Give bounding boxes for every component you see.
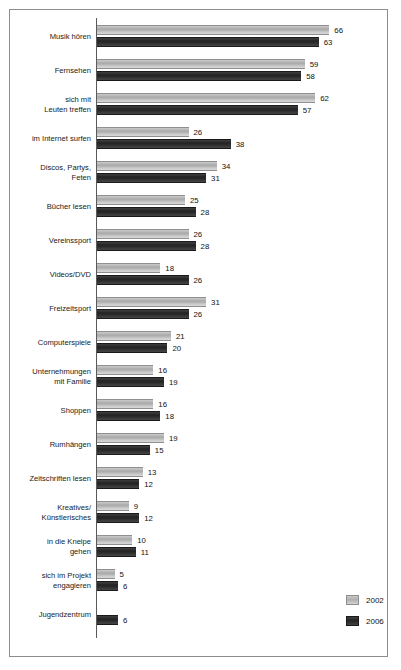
bar-2002 (97, 365, 153, 375)
bar-2002 (97, 127, 189, 137)
bar-track: 38 (97, 139, 387, 149)
bar-2006 (97, 445, 150, 455)
bar-group-row: sich im Projekt engagieren56 (10, 564, 387, 598)
light-gray-swatch (346, 595, 359, 605)
bar-2002 (97, 331, 171, 341)
bar-2006 (97, 207, 196, 217)
bar-track: 34 (97, 161, 387, 171)
bar-track: 28 (97, 241, 387, 251)
bar-2002 (97, 93, 315, 103)
bar-track: 21 (97, 331, 387, 341)
category-label: Musik hören (0, 32, 91, 42)
bar-track: 16 (97, 399, 387, 409)
bar-value-label: 38 (236, 140, 245, 149)
category-label: Discos, Partys, Feten (0, 163, 91, 182)
bar-group-row: Musik hören6663 (10, 20, 387, 54)
bars-for-category: 6663 (97, 20, 387, 54)
bar-2002 (97, 399, 153, 409)
bars-for-category: 6257 (97, 88, 387, 122)
bar-value-label: 28 (201, 208, 210, 217)
bar-track: 19 (97, 433, 387, 443)
category-label: Vereinssport (0, 236, 91, 246)
bar-value-label: 31 (211, 174, 220, 183)
bar-group-row: Kreatives/ Künstlerisches912 (10, 496, 387, 530)
category-label: sich im Projekt engagieren (0, 571, 91, 590)
bar-track: 15 (97, 445, 387, 455)
bar-value-label: 18 (165, 412, 174, 421)
bar-2002 (97, 297, 206, 307)
bar-track: 26 (97, 275, 387, 285)
bars-for-category: 912 (97, 496, 387, 530)
legend-item-2002: 2002 (346, 595, 401, 605)
bar-2006 (97, 343, 167, 353)
chart-legend: 20022006 (346, 595, 401, 637)
bar-value-label: 6 (123, 582, 127, 591)
bar-group-row: in die Kneipe gehen1011 (10, 530, 387, 564)
bar-track: 31 (97, 297, 387, 307)
bar-value-label: 5 (120, 570, 124, 579)
bar-value-label: 11 (141, 548, 149, 557)
bar-track: 66 (97, 25, 387, 35)
bar-2002 (97, 569, 115, 579)
bar-value-label: 18 (165, 264, 174, 273)
bar-value-label: 16 (158, 400, 167, 409)
bar-chart-plot-area: Musik hören6663Fernsehen5958sich mit Leu… (10, 10, 387, 656)
category-label: Kreatives/ Künstlerisches (0, 503, 91, 522)
bar-value-label: 6 (123, 616, 127, 625)
category-label: Jugendzentrum (0, 610, 91, 620)
bar-track: 12 (97, 513, 387, 523)
bar-2002 (97, 25, 329, 35)
bar-2002 (97, 433, 164, 443)
bar-track: 19 (97, 377, 387, 387)
bar-group-row: Bücher lesen2528 (10, 190, 387, 224)
bar-track: 63 (97, 37, 387, 47)
category-label: Freizeitsport (0, 304, 91, 314)
bar-track: 57 (97, 105, 387, 115)
bar-value-label: 28 (201, 242, 210, 251)
bar-track: 62 (97, 93, 387, 103)
bar-2006 (97, 241, 196, 251)
bar-track: 26 (97, 127, 387, 137)
bar-2002 (97, 501, 129, 511)
bar-value-label: 25 (190, 196, 199, 205)
bar-group-row: Rumhängen1915 (10, 428, 387, 462)
bars-for-category: 1312 (97, 462, 387, 496)
bar-value-label: 26 (194, 230, 203, 239)
bar-track: 25 (97, 195, 387, 205)
bar-2006 (97, 377, 164, 387)
bars-for-category: 5958 (97, 54, 387, 88)
bar-track: 59 (97, 59, 387, 69)
bars-for-category: 3431 (97, 156, 387, 190)
bar-group-row: Videos/DVD1826 (10, 258, 387, 292)
bar-2006 (97, 173, 206, 183)
bar-group-row: Freizeitsport3126 (10, 292, 387, 326)
bar-value-label: 26 (194, 276, 203, 285)
bar-2006 (97, 479, 139, 489)
bar-2006 (97, 547, 136, 557)
bar-value-label: 9 (134, 502, 138, 511)
bar-value-label: 58 (306, 72, 315, 81)
bar-2002 (97, 229, 189, 239)
bar-value-label: 66 (334, 26, 343, 35)
bars-for-category: 6 (97, 598, 387, 632)
bar-value-label: 63 (324, 38, 333, 47)
bar-value-label: 57 (303, 106, 312, 115)
bar-track: 6 (97, 615, 387, 625)
bar-2002 (97, 195, 185, 205)
bar-track: 9 (97, 501, 387, 511)
bars-for-category: 1618 (97, 394, 387, 428)
category-label: Fernsehen (0, 66, 91, 76)
bar-group-row: Fernsehen5958 (10, 54, 387, 88)
category-label: Computerspiele (0, 338, 91, 348)
bar-track: 16 (97, 365, 387, 375)
dark-swatch (346, 616, 359, 626)
bar-track: 26 (97, 229, 387, 239)
chart-frame: Musik hören6663Fernsehen5958sich mit Leu… (9, 9, 388, 657)
bar-2006 (97, 411, 160, 421)
bars-for-category: 2638 (97, 122, 387, 156)
bar-value-label: 16 (158, 366, 167, 375)
bar-track: 12 (97, 479, 387, 489)
bar-value-label: 31 (211, 298, 220, 307)
bars-for-category: 1011 (97, 530, 387, 564)
bar-value-label: 19 (169, 378, 178, 387)
